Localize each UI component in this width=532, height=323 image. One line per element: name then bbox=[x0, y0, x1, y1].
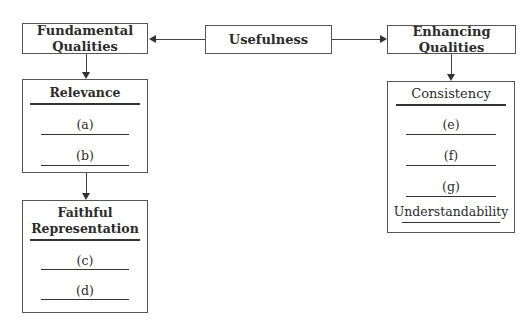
connector-usefulness-fundamental bbox=[155, 39, 205, 40]
faithful-title-line1: Faithful bbox=[23, 205, 147, 221]
relevance-item-a: (a) bbox=[23, 117, 147, 132]
faithful-title-line2: Representation bbox=[23, 221, 147, 237]
fundamental-qualities-box: Fundamental Qualities bbox=[22, 23, 148, 54]
fundamental-line1: Fundamental bbox=[37, 23, 133, 39]
blank-line bbox=[406, 134, 496, 135]
blank-line bbox=[41, 134, 129, 135]
enhancing-qualities-title: Enhancing Qualities bbox=[412, 24, 490, 56]
enhancing-item-e: (e) bbox=[388, 117, 514, 132]
relevance-item-b: (b) bbox=[23, 148, 147, 163]
relevance-title: Relevance bbox=[23, 85, 147, 101]
connector-fundamental-relevance bbox=[86, 54, 87, 72]
arrow-right-icon bbox=[380, 35, 387, 43]
usefulness-title: Usefulness bbox=[229, 32, 308, 48]
faithful-representation-box: Faithful Representation (c) (d) bbox=[22, 200, 148, 313]
blank-line bbox=[41, 299, 129, 300]
connector-enhancing-items bbox=[451, 54, 452, 74]
fundamental-qualities-title: Fundamental Qualities bbox=[37, 23, 133, 55]
blank-line bbox=[406, 196, 496, 197]
blank-line bbox=[406, 165, 496, 166]
enhancing-qualities-box: Enhancing Qualities bbox=[387, 25, 516, 54]
enhancing-item-g: (g) bbox=[388, 179, 514, 194]
divider bbox=[30, 103, 140, 105]
blank-line bbox=[402, 222, 500, 223]
arrow-down-icon bbox=[82, 72, 90, 79]
enhancing-item-consistency: Consistency bbox=[388, 86, 514, 101]
connector-relevance-faithful bbox=[86, 173, 87, 193]
blank-line bbox=[41, 269, 129, 270]
usefulness-box: Usefulness bbox=[205, 25, 332, 54]
arrow-down-icon bbox=[447, 74, 455, 81]
divider bbox=[396, 104, 506, 106]
relevance-box: Relevance (a) (b) bbox=[22, 79, 148, 173]
connector-usefulness-enhancing bbox=[332, 39, 380, 40]
faithful-item-c: (c) bbox=[23, 253, 147, 268]
enhancing-item-understandability: Understandability bbox=[388, 204, 514, 219]
enhancing-item-f: (f) bbox=[388, 148, 514, 163]
enhancing-items-box: Consistency (e) (f) (g) Understandabilit… bbox=[387, 81, 515, 233]
divider bbox=[30, 239, 140, 241]
fundamental-line2: Qualities bbox=[37, 39, 133, 55]
arrow-down-icon bbox=[82, 193, 90, 200]
faithful-item-d: (d) bbox=[23, 283, 147, 298]
enhancing-line1: Enhancing bbox=[412, 24, 490, 40]
blank-line bbox=[41, 165, 129, 166]
arrow-left-icon bbox=[149, 35, 156, 43]
